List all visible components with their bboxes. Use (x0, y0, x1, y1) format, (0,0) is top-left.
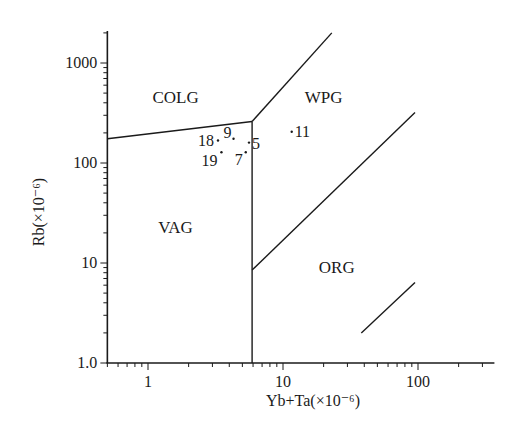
point-marker (217, 139, 219, 141)
point-marker (248, 141, 250, 143)
data-point: 5 (248, 135, 260, 152)
field-boundaries (107, 33, 415, 363)
data-point: 19 (201, 151, 222, 169)
data-point: 9 (224, 124, 235, 141)
y-axis-label: Rb(×10⁻⁶) (30, 178, 48, 246)
x-tick-label: 1 (144, 373, 152, 390)
y-tick-label: 1.0 (77, 354, 97, 371)
x-axis-label: Yb+Ta(×10⁻⁶) (266, 392, 360, 410)
y-tick-label: 100 (73, 154, 97, 171)
axes: 1101001.0101001000 (65, 31, 494, 390)
field-labels: COLGWPGVAGORG (152, 88, 354, 277)
y-tick-label: 10 (81, 254, 97, 271)
chart-svg: 1101001.0101001000 COLGWPGVAGORG 1895197… (0, 0, 522, 429)
point-label: 5 (252, 135, 260, 152)
point-marker (220, 151, 222, 153)
data-points: 189519711 (198, 123, 310, 169)
field-label-wpg: WPG (305, 88, 343, 107)
x-tick-label: 100 (406, 373, 430, 390)
tectonic-discrimination-chart: 1101001.0101001000 COLGWPGVAGORG 1895197… (0, 0, 522, 429)
point-label: 9 (224, 124, 232, 141)
data-point: 18 (198, 132, 219, 149)
point-label: 18 (198, 132, 214, 149)
boundary-line-wpg-org (252, 113, 415, 271)
point-label: 19 (201, 152, 217, 169)
field-label-org: ORG (319, 258, 355, 277)
point-marker (232, 137, 234, 139)
point-marker (245, 151, 247, 153)
y-tick-label: 1000 (65, 54, 97, 71)
data-point: 7 (235, 151, 247, 168)
point-label: 11 (295, 123, 310, 140)
field-label-colg: COLG (152, 88, 198, 107)
data-point: 11 (291, 123, 311, 140)
point-label: 7 (235, 151, 243, 168)
x-tick-label: 10 (275, 373, 291, 390)
boundary-line-wpg-colg (252, 33, 332, 122)
field-label-vag: VAG (158, 218, 193, 237)
boundary-line-org-inner (361, 282, 415, 333)
point-marker (291, 131, 293, 133)
